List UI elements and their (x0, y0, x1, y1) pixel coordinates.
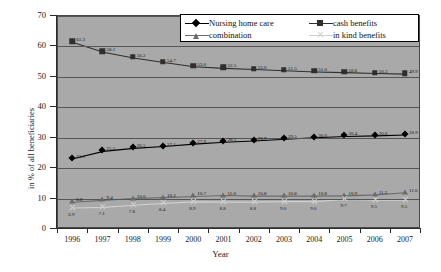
data-point-marker (251, 193, 257, 198)
data-point-marker (281, 136, 286, 141)
x-axis-tick-label: 2006 (358, 236, 392, 244)
data-point-marker (99, 197, 105, 202)
data-point-marker (372, 132, 377, 137)
data-point-marker (70, 155, 75, 160)
data-point-label: 10.8 (258, 191, 267, 196)
line-chart: 010203040506070 199619971998199920002001… (0, 0, 441, 272)
y-axis-tick-label: 50 (0, 72, 46, 81)
data-point-label: 58.1 (106, 47, 115, 52)
data-point-label: 56.2 (137, 52, 146, 57)
y-axis-tick (50, 228, 57, 229)
data-point-marker (402, 189, 408, 194)
data-point-marker (69, 39, 75, 45)
data-point-label: 52.0 (258, 64, 267, 69)
data-point-marker (251, 198, 257, 204)
data-point-marker (100, 148, 105, 153)
legend-item-nursing-home-care[interactable]: Nursing home care (185, 17, 309, 29)
data-point-marker (341, 195, 347, 201)
data-point-label: 8.8 (250, 206, 256, 211)
data-point-marker (402, 196, 408, 202)
data-point-marker (130, 195, 136, 200)
data-point-label: 9.0 (310, 205, 316, 210)
data-point-marker (130, 201, 136, 207)
data-point-label: 53.0 (197, 61, 206, 66)
x-axis-tick-label: 2003 (267, 236, 301, 244)
legend-item-cash-benefits[interactable]: cash benefits (309, 17, 377, 29)
data-point-label: 8.8 (76, 197, 82, 202)
data-point-label: 51.5 (288, 65, 297, 70)
y-axis-tick (50, 137, 57, 138)
data-point-marker (281, 198, 287, 204)
gridline (58, 168, 419, 169)
x-axis-tick-label: 2002 (237, 236, 271, 244)
data-point-label: 7.8 (129, 209, 135, 214)
x-axis-tick-label: 2004 (297, 236, 331, 244)
y-axis-tick-label: 10 (0, 194, 46, 203)
x-axis-title: Year (0, 250, 441, 259)
data-point-label: 10.3 (167, 192, 176, 197)
data-point-label: 49.9 (409, 69, 418, 74)
data-point-label: 28.5 (227, 137, 236, 142)
y-axis-tick (50, 45, 57, 46)
legend-label: combination (209, 31, 252, 40)
legend-label: Nursing home care (209, 19, 274, 28)
data-point-marker (402, 70, 408, 76)
data-point-marker (220, 198, 226, 204)
legend-item-combination[interactable]: combination (185, 29, 309, 41)
data-point-marker (69, 204, 75, 210)
x-axis-tick (87, 228, 88, 233)
y-axis-tick (50, 167, 57, 168)
data-point-label: 30.9 (409, 129, 418, 134)
x-axis-tick-label: 2000 (176, 236, 210, 244)
legend-label: cash benefits (333, 19, 377, 28)
x-axis-tick (208, 228, 209, 233)
data-point-label: 10.8 (288, 191, 297, 196)
gridline (58, 107, 419, 108)
data-point-label: 50.6 (348, 67, 357, 72)
data-point-label: 61.3 (76, 37, 85, 42)
data-point-label: 8.4 (159, 207, 165, 212)
data-point-label: 50.3 (379, 68, 388, 73)
x-axis-tick-label: 2005 (327, 236, 361, 244)
data-point-label: 10.7 (197, 191, 206, 196)
y-axis-tick (50, 106, 57, 107)
x-axis-tick (148, 228, 149, 233)
y-axis-title: in % of all beneficiaries (27, 74, 36, 224)
legend-label: in kind benefits (333, 31, 386, 40)
data-point-label: 9.5 (371, 204, 377, 209)
data-point-label: 51.0 (318, 66, 327, 71)
legend-item-in-kind-benefits[interactable]: in kind benefits (309, 29, 386, 41)
x-axis-tick (178, 228, 179, 233)
x-axis-tick-label: 2001 (206, 236, 240, 244)
data-point-label: 27.1 (167, 141, 176, 146)
data-point-marker (220, 192, 226, 197)
x-marker-icon (309, 30, 333, 41)
data-point-label: 26.5 (137, 143, 146, 148)
legend-row-1: Nursing home care cash benefits (185, 17, 414, 29)
data-point-marker (100, 48, 106, 54)
data-point-marker (69, 199, 75, 204)
data-point-label: 10.9 (348, 190, 357, 195)
x-axis-tick-label: 1999 (146, 236, 180, 244)
data-point-label: 9.0 (280, 205, 286, 210)
gridline (58, 138, 419, 139)
data-point-marker (99, 203, 105, 209)
x-axis-tick (420, 228, 421, 233)
y-axis-tick (50, 198, 57, 199)
triangle-marker-icon (185, 30, 209, 41)
data-point-marker (342, 69, 348, 75)
data-point-label: 30.6 (379, 130, 388, 135)
data-point-label: 10.0 (137, 193, 146, 198)
data-point-marker (342, 133, 347, 138)
y-axis-tick-label: 30 (0, 133, 46, 142)
diamond-marker-icon (185, 18, 209, 29)
x-axis-tick-label: 2007 (388, 236, 422, 244)
data-point-label: 9.4 (106, 195, 112, 200)
square-marker-icon (309, 18, 333, 29)
data-point-label: 23.1 (76, 153, 85, 158)
data-point-label: 30.0 (318, 132, 327, 137)
data-point-marker (191, 141, 196, 146)
data-point-label: 8.8 (219, 206, 225, 211)
x-axis-tick-label: 1996 (55, 236, 89, 244)
data-point-label: 11.0 (227, 190, 236, 195)
